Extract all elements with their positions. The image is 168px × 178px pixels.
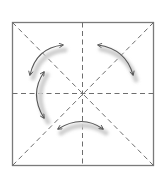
fold-diagram	[0, 0, 168, 178]
fold-diagram-svg	[0, 0, 168, 178]
crease-lines	[13, 23, 154, 166]
